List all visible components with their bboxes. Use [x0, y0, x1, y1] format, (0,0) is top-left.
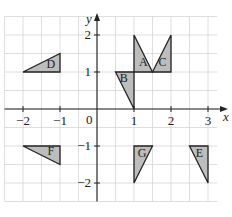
y-tick-label: −2: [77, 175, 91, 190]
triangle-b: B: [116, 71, 135, 109]
y-axis-arrow-icon: [94, 13, 100, 21]
y-tick-label: −1: [77, 138, 91, 153]
y-axis-label: y: [84, 11, 92, 26]
y-tick-label: 2: [85, 27, 92, 42]
triangle-label: D: [46, 57, 55, 71]
x-tick-label: 2: [168, 113, 175, 128]
y-tick-label: 1: [85, 64, 92, 79]
x-tick-label: −1: [53, 113, 67, 128]
triangle-label: A: [139, 55, 148, 69]
triangle-label: G: [138, 146, 147, 160]
x-axis-label: x: [222, 109, 229, 124]
triangle-label: F: [47, 144, 54, 158]
triangle-label: C: [158, 55, 166, 69]
triangle-label: E: [196, 146, 203, 160]
axes: x y 0: [5, 11, 230, 202]
x-tick-label: 3: [205, 113, 212, 128]
coordinate-diagram: ABCDEFG x y 0 −2−112321−1−2: [0, 0, 232, 217]
x-tick-label: −2: [16, 113, 30, 128]
triangle-label: B: [120, 71, 128, 85]
origin-label: 0: [86, 112, 93, 127]
x-tick-label: 1: [131, 113, 138, 128]
